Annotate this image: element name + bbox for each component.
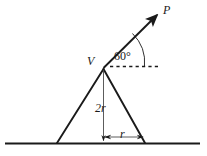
angle-label: 60° (114, 50, 131, 62)
half-base-label: r (120, 128, 125, 140)
geometry-figure: P V 60° 2r r (0, 0, 207, 156)
apex-vertex-label: V (87, 55, 94, 67)
height-label: 2r (95, 102, 106, 114)
force-vector-label: P (163, 4, 170, 16)
figure-canvas (0, 0, 207, 156)
